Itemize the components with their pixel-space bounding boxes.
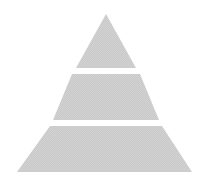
pyramid-diagram xyxy=(0,0,210,187)
diagram-canvas xyxy=(0,0,210,187)
